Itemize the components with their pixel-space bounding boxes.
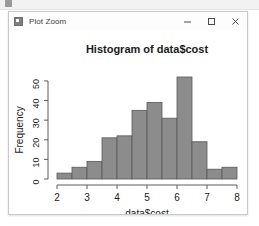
- histogram-bar: [147, 103, 162, 180]
- histogram-bar: [207, 169, 222, 179]
- x-axis-tick-label: 2: [54, 192, 60, 203]
- histogram-bar: [87, 161, 102, 179]
- histogram-bar: [57, 173, 72, 179]
- histogram-bar: [132, 110, 147, 179]
- close-button[interactable]: [223, 12, 247, 31]
- histogram-bar: [177, 77, 192, 179]
- histogram-bar: [222, 167, 237, 179]
- x-axis-label: data$cost: [125, 208, 169, 214]
- maximize-button[interactable]: [199, 12, 223, 31]
- y-axis-tick-label: 10: [31, 157, 41, 167]
- y-axis-tick-label: 20: [31, 138, 41, 148]
- x-axis-tick-label: 6: [174, 192, 180, 203]
- histogram-bar: [117, 136, 132, 179]
- histogram-bar: [102, 138, 117, 179]
- window-titlebar[interactable]: Plot Zoom: [9, 12, 247, 32]
- window-controls: [175, 12, 247, 31]
- plot-zoom-window: Plot Zoom Histogram of data$cost01020304…: [8, 11, 248, 215]
- bars-group: [57, 77, 237, 179]
- x-axis-tick-label: 5: [144, 192, 150, 203]
- histogram-svg: Histogram of data$cost01020304050Frequen…: [9, 31, 247, 214]
- background-window-icon: [5, 0, 12, 7]
- background-window-strip: [0, 0, 259, 10]
- x-axis-tick-label: 3: [84, 192, 90, 203]
- window-title: Plot Zoom: [29, 17, 66, 26]
- minimize-button[interactable]: [175, 12, 199, 31]
- chart-title: Histogram of data$cost: [86, 43, 209, 55]
- x-axis-tick-label: 4: [114, 192, 120, 203]
- y-axis-tick-label: 40: [31, 99, 41, 109]
- x-axis-tick-label: 7: [204, 192, 210, 203]
- histogram-bar: [192, 142, 207, 179]
- y-axis-tick-label: 50: [31, 79, 41, 89]
- y-axis-tick-label: 30: [31, 118, 41, 128]
- x-axis-tick-label: 8: [234, 192, 240, 203]
- y-axis-label: Frequency: [14, 106, 25, 153]
- y-axis-tick-label: 0: [31, 179, 41, 184]
- plot-window-icon: [14, 17, 23, 26]
- histogram-plot-area: Histogram of data$cost01020304050Frequen…: [9, 31, 247, 214]
- histogram-bar: [162, 118, 177, 179]
- histogram-bar: [72, 167, 87, 179]
